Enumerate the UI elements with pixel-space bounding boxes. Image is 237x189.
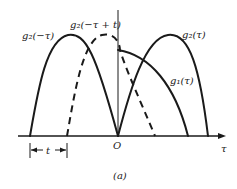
figure-caption: (a) — [113, 170, 127, 181]
label-g2-tau: g₂(τ) — [182, 29, 206, 40]
label-g2-neg-tau-plus-t: g₂(−τ + t) — [70, 19, 121, 30]
label-tau-axis: τ — [221, 143, 227, 154]
curve-g2-neg-tau-plus-t — [67, 35, 155, 136]
curve-g1-tau — [118, 50, 188, 136]
label-g1-tau: g₁(τ) — [170, 75, 194, 86]
curve-g2-neg-tau — [30, 35, 118, 136]
shift-arrow-left-icon — [31, 148, 37, 153]
label-origin: O — [113, 140, 121, 151]
convolution-diagram: g₂(−τ) g₂(−τ + t) g₂(τ) g₁(τ) t O τ (a) — [0, 0, 237, 189]
shift-arrow-right-icon — [60, 148, 66, 153]
label-shift-t: t — [46, 145, 51, 156]
curve-g2-tau — [118, 35, 208, 136]
tau-axis-arrowhead — [218, 133, 226, 139]
label-g2-neg-tau: g₂(−τ) — [22, 30, 54, 41]
